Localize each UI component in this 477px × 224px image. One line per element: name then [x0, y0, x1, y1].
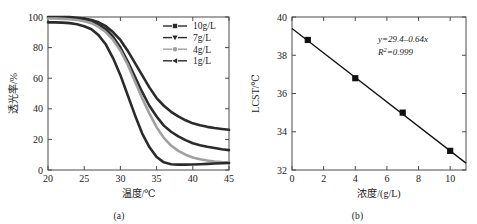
x-tick-label: 6: [384, 173, 389, 184]
r2-annotation: R2=0.999: [377, 46, 414, 58]
x-tick-label: 2: [321, 173, 326, 184]
x-tick-label: 40: [188, 173, 198, 184]
x-axis-title: 温度/℃: [122, 187, 156, 199]
data-point-marker: [447, 148, 453, 154]
y-tick-label: 38: [277, 50, 287, 61]
equation-annotation: y=29.4–0.64x: [377, 34, 428, 44]
figure-container: 202530354045020406080100温度/℃透光率/%10g/L7g…: [0, 0, 477, 224]
y-axis-title: 透光率/%: [7, 73, 19, 114]
x-axis-title: 浓度/(g/L): [357, 187, 400, 200]
y-tick-label: 32: [277, 165, 287, 176]
legend-label: 4g/L: [193, 45, 211, 55]
data-point-marker: [352, 75, 358, 81]
panel-b-plot: 02468103234363840浓度/(g/L)LCST/℃y=29.4–0.…: [238, 0, 477, 224]
legend-marker-circle: [173, 47, 177, 51]
x-tick-label: 10: [445, 173, 455, 184]
legend-marker-square: [173, 24, 177, 28]
legend-marker-triangle-left: [172, 58, 177, 63]
x-tick-label: 35: [152, 173, 162, 184]
y-axis-title: LCST/℃: [250, 74, 261, 112]
legend-label: 10g/L: [193, 21, 216, 31]
panel-b-caption: (b): [238, 211, 477, 221]
y-tick-label: 80: [33, 42, 43, 53]
x-tick-label: 20: [43, 173, 53, 184]
y-tick-label: 34: [277, 126, 287, 137]
r2-value: =0.999: [387, 47, 414, 57]
x-tick-label: 8: [416, 173, 421, 184]
legend-label: 7g/L: [193, 33, 211, 43]
x-tick-label: 0: [290, 173, 295, 184]
y-tick-label: 40: [33, 103, 43, 114]
x-tick-label: 30: [115, 173, 125, 184]
data-point-marker: [305, 37, 311, 43]
y-tick-label: 40: [277, 12, 287, 23]
y-tick-label: 36: [277, 88, 287, 99]
x-tick-label: 25: [79, 173, 89, 184]
legend-label: 1g/L: [193, 56, 211, 66]
data-point-marker: [400, 110, 406, 116]
legend-marker-triangle-down: [172, 36, 177, 41]
y-tick-label: 20: [33, 134, 43, 145]
y-tick-label: 100: [28, 12, 43, 23]
panel-a-plot: 202530354045020406080100温度/℃透光率/%10g/L7g…: [0, 0, 238, 224]
chart-panel-a: 202530354045020406080100温度/℃透光率/%10g/L7g…: [0, 0, 238, 224]
y-tick-label: 0: [38, 165, 43, 176]
chart-panel-b: 02468103234363840浓度/(g/L)LCST/℃y=29.4–0.…: [238, 0, 477, 224]
panel-a-caption: (a): [0, 211, 238, 221]
x-tick-label: 45: [224, 173, 234, 184]
y-tick-label: 60: [33, 73, 43, 84]
x-tick-label: 4: [353, 173, 358, 184]
